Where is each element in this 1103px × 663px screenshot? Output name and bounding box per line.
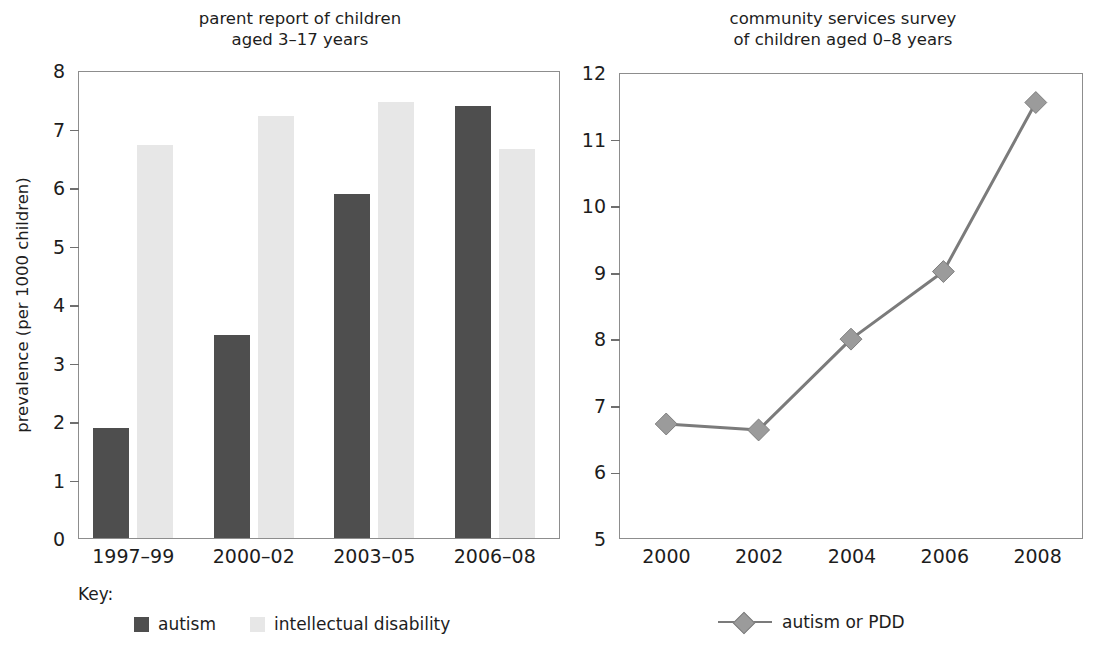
panel-parent-report: parent report of children aged 3–17 year… [0,0,578,663]
left-y-tick-mark [70,247,79,249]
legend-label-intellectual-disability: intellectual disability [274,614,450,634]
bar-autism [455,106,491,538]
left-y-tick-label: 0 [53,528,65,550]
left-x-tick-label: 2003–05 [333,545,415,567]
figure-two-panel-chart: parent report of children aged 3–17 year… [0,0,1103,663]
left-x-tick-label: 1997–99 [92,545,174,567]
left-plot-area: 0123456781997–992000–022003–052006–08 [78,71,560,539]
data-point-marker [932,261,954,283]
left-legend: autism intellectual disability [134,614,450,634]
right-y-tick-mark [611,473,620,475]
legend-item-intellectual-disability: intellectual disability [250,614,450,634]
right-x-tick-label: 2006 [921,545,969,567]
left-plot-inner: 0123456781997–992000–022003–052006–08 [79,72,559,538]
legend-item-autism: autism [134,614,216,634]
left-y-tick-label: 8 [53,60,65,82]
bar-autism [214,335,250,538]
right-x-tick-label: 2000 [642,545,690,567]
right-y-tick-label: 7 [594,395,606,417]
line-path-autism-or-pdd [666,103,1036,430]
right-y-tick-label: 5 [594,528,606,550]
left-y-tick-label: 5 [53,236,65,258]
right-x-tick-label: 2002 [735,545,783,567]
legend-marker-autism-or-pdd [718,613,772,631]
left-y-tick-mark [70,305,79,307]
legend-label-autism-or-pdd: autism or PDD [782,612,905,632]
bar-intellectual-disability [378,102,414,538]
right-y-tick-label: 9 [594,262,606,284]
left-y-tick-mark [70,422,79,424]
bar-autism [93,428,129,538]
legend-swatch-autism [134,617,149,632]
left-x-tick-label: 2000–02 [213,545,295,567]
left-y-tick-mark [70,364,79,366]
right-y-tick-mark [611,406,620,408]
bar-group: 2006–08 [455,72,535,538]
left-y-tick-label: 4 [53,294,65,316]
data-point-marker [655,413,677,435]
legend-label-autism: autism [158,614,216,634]
right-y-tick-mark [611,273,620,275]
left-y-tick-label: 1 [53,470,65,492]
right-plot-area: 5678910111220002002200420062008 [619,73,1083,539]
bar-group: 1997–99 [93,72,173,538]
legend-swatch-intellectual-disability [250,617,265,632]
left-y-tick-mark [70,130,79,132]
left-y-tick-mark [70,481,79,483]
right-chart-title: community services survey of children ag… [598,8,1088,50]
left-key-block: Key: autism intellectual disability [78,584,558,604]
panel-community-services: community services survey of children ag… [578,0,1103,663]
left-y-tick-label: 6 [53,177,65,199]
bar-intellectual-disability [499,149,535,538]
right-y-tick-label: 10 [582,195,606,217]
bar-intellectual-disability [258,116,294,538]
right-y-tick-mark [611,339,620,341]
right-y-tick-label: 11 [582,129,606,151]
bar-intellectual-disability [137,145,173,538]
right-y-tick-mark [611,206,620,208]
left-chart-title: parent report of children aged 3–17 year… [40,8,560,50]
bar-group: 2003–05 [334,72,414,538]
left-y-tick-mark [70,188,79,190]
right-y-tick-label: 8 [594,328,606,350]
right-legend: autism or PDD [718,612,905,632]
left-y-tick-label: 3 [53,353,65,375]
right-y-tick-label: 6 [594,461,606,483]
left-x-tick-label: 2006–08 [454,545,536,567]
bar-autism [334,194,370,538]
line-series-svg [620,74,1082,538]
left-y-tick-label: 7 [53,119,65,141]
right-y-tick-mark [611,140,620,142]
right-x-tick-label: 2008 [1013,545,1061,567]
key-label: Key: [78,584,558,604]
data-point-marker [1025,92,1047,114]
diamond-icon [733,612,756,635]
right-y-tick-label: 12 [582,62,606,84]
right-x-tick-label: 2004 [828,545,876,567]
left-y-axis-title: prevalence (per 1000 children) [13,177,32,433]
left-y-tick-label: 2 [53,411,65,433]
bar-group: 2000–02 [214,72,294,538]
